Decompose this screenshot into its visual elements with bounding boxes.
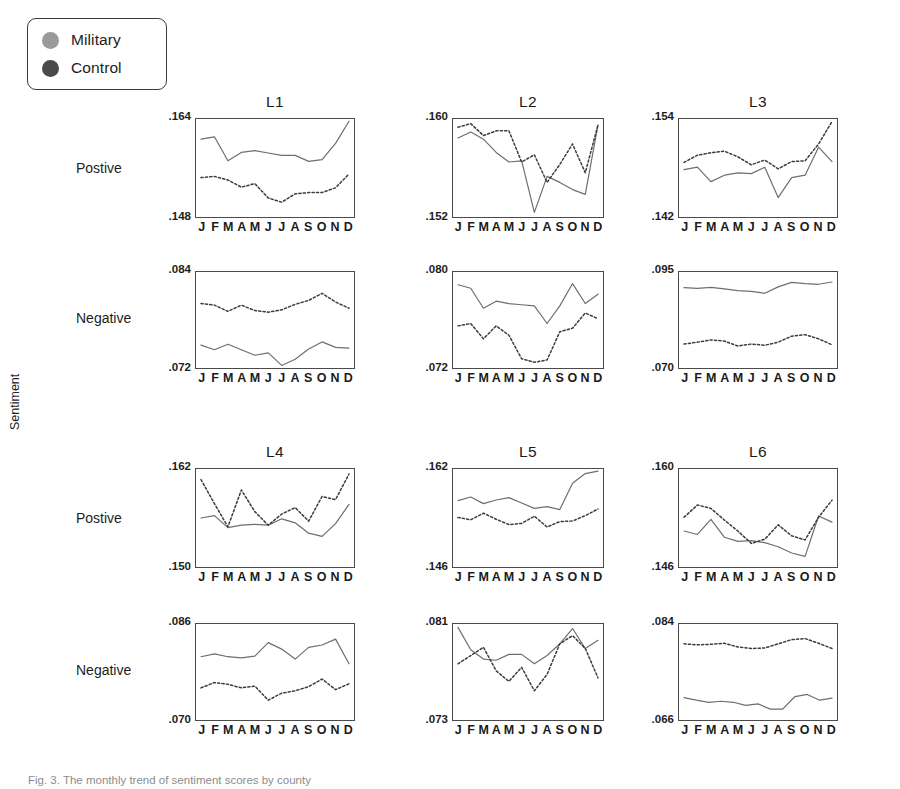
x-tick: N — [811, 723, 824, 737]
series-canvas — [678, 468, 838, 568]
x-tick: N — [811, 220, 824, 234]
x-tick: F — [465, 220, 478, 234]
x-tick: F — [691, 723, 704, 737]
x-axis-ticks: JFMAMJJASOND — [452, 220, 604, 234]
y-tick-min: .073 — [408, 713, 448, 725]
row-label-2: Postive — [76, 510, 122, 526]
panel-l3-negative: .095.070JFMAMJJASOND — [678, 271, 838, 369]
legend-label-control: Control — [71, 59, 122, 77]
x-tick: A — [490, 570, 503, 584]
x-tick: J — [528, 220, 541, 234]
series-line-military — [458, 471, 598, 509]
x-tick: J — [678, 723, 691, 737]
y-tick-min: .072 — [408, 361, 448, 373]
series-line-military — [458, 125, 598, 213]
x-tick: J — [275, 220, 288, 234]
y-tick-max: .084 — [151, 263, 191, 275]
x-tick: A — [718, 723, 731, 737]
series-canvas — [452, 623, 604, 721]
x-tick: A — [490, 723, 503, 737]
x-axis-ticks: JFMAMJJASOND — [678, 220, 838, 234]
x-tick: F — [208, 371, 221, 385]
legend: Military Control — [27, 18, 167, 90]
series-canvas — [452, 468, 604, 568]
x-tick: O — [315, 723, 328, 737]
x-tick: F — [691, 371, 704, 385]
y-tick-min: .146 — [408, 560, 448, 572]
panel-title: L3 — [678, 93, 838, 111]
x-tick: O — [798, 220, 811, 234]
x-tick: J — [515, 570, 528, 584]
x-tick: M — [705, 371, 718, 385]
series-line-military — [684, 516, 832, 556]
x-tick: M — [705, 723, 718, 737]
x-tick: J — [262, 570, 275, 584]
x-tick: A — [771, 371, 784, 385]
series-canvas — [678, 271, 838, 369]
y-tick-max: .095 — [634, 263, 674, 275]
x-tick: J — [195, 723, 208, 737]
panel-l6-negative: .084.066JFMAMJJASOND — [678, 623, 838, 721]
x-tick: M — [477, 220, 490, 234]
x-tick: M — [248, 570, 261, 584]
x-tick: J — [262, 723, 275, 737]
x-tick: J — [275, 570, 288, 584]
x-tick: D — [342, 723, 355, 737]
y-tick-min: .070 — [634, 361, 674, 373]
x-tick: D — [825, 723, 838, 737]
x-axis-ticks: JFMAMJJASOND — [678, 570, 838, 584]
series-canvas — [452, 271, 604, 369]
x-tick: A — [771, 723, 784, 737]
x-tick: A — [541, 723, 554, 737]
series-line-control — [684, 639, 832, 649]
series-line-military — [458, 627, 598, 663]
x-tick: A — [490, 220, 503, 234]
panel-l4-negative: .086.070JFMAMJJASOND — [195, 623, 355, 721]
series-canvas — [195, 623, 355, 721]
y-tick-max: .086 — [151, 615, 191, 627]
x-tick: J — [678, 220, 691, 234]
panel-title: L2 — [452, 93, 604, 111]
x-tick: N — [811, 371, 824, 385]
series-line-control — [458, 313, 598, 362]
x-tick: M — [705, 220, 718, 234]
x-tick: M — [705, 570, 718, 584]
panel-l3-postive: L3.154.142JFMAMJJASOND — [678, 118, 838, 218]
panel-l2-postive: L2.160.152JFMAMJJASOND — [452, 118, 604, 218]
series-line-military — [684, 282, 832, 293]
y-tick-max: .080 — [408, 263, 448, 275]
series-line-control — [201, 174, 349, 202]
x-tick: D — [825, 371, 838, 385]
panel-l2-negative: .080.072JFMAMJJASOND — [452, 271, 604, 369]
x-tick: J — [515, 723, 528, 737]
x-tick: D — [342, 570, 355, 584]
x-tick: J — [528, 570, 541, 584]
x-axis-ticks: JFMAMJJASOND — [452, 570, 604, 584]
y-tick-min: .066 — [634, 713, 674, 725]
panel-title: L6 — [678, 443, 838, 461]
panel-l5-postive: L5.162.146JFMAMJJASOND — [452, 468, 604, 568]
x-tick: O — [798, 723, 811, 737]
x-axis-ticks: JFMAMJJASOND — [195, 570, 355, 584]
y-tick-max: .164 — [151, 110, 191, 122]
x-tick: M — [503, 371, 516, 385]
x-tick: N — [579, 570, 592, 584]
x-tick: J — [745, 371, 758, 385]
x-tick: A — [235, 570, 248, 584]
x-tick: N — [328, 723, 341, 737]
panel-title: L5 — [452, 443, 604, 461]
y-tick-max: .154 — [634, 110, 674, 122]
series-line-military — [684, 694, 832, 709]
x-tick: J — [195, 220, 208, 234]
x-tick: F — [465, 723, 478, 737]
series-line-control — [458, 509, 598, 527]
row-label-0: Postive — [76, 160, 122, 176]
x-tick: O — [315, 220, 328, 234]
x-tick: S — [302, 371, 315, 385]
military-swatch-icon — [42, 32, 59, 49]
x-tick: M — [477, 371, 490, 385]
x-tick: J — [758, 371, 771, 385]
series-line-control — [684, 335, 832, 346]
panel-l4-postive: L4.162.150JFMAMJJASOND — [195, 468, 355, 568]
x-tick: M — [731, 371, 744, 385]
